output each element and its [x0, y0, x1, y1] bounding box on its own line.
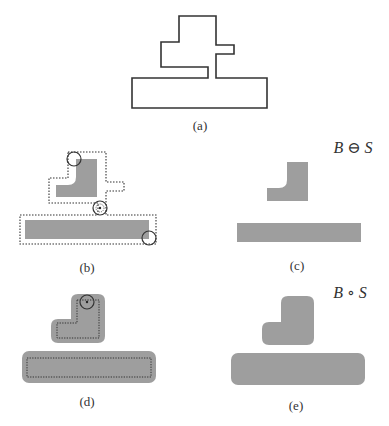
panel-b: (b): [20, 152, 156, 275]
erosion-l-shape: [267, 162, 308, 201]
dilated-bar: [22, 351, 156, 383]
set-b-outline: [132, 16, 267, 108]
origin-dot: [86, 301, 88, 303]
origin-dot: [99, 207, 101, 209]
formula-opening: B ∘ S: [333, 284, 367, 301]
erosion-bar: [237, 223, 361, 242]
opening-l-shape: [262, 296, 314, 345]
morphology-diagram: (a) (b) B ⊖ S (c) (d) B ∘ S (e): [0, 0, 389, 426]
dilated-l-shape: [51, 294, 105, 343]
caption-e: (e): [289, 398, 303, 413]
panel-d: (d): [22, 294, 156, 409]
eroded-bar: [25, 220, 149, 239]
caption-b: (b): [79, 260, 94, 275]
caption-d: (d): [79, 394, 94, 409]
opening-bar: [231, 353, 365, 385]
caption-a: (a): [193, 118, 207, 133]
caption-c: (c): [290, 258, 304, 273]
formula-erosion: B ⊖ S: [333, 139, 372, 156]
panel-a: (a): [132, 16, 267, 133]
panel-e: B ∘ S (e): [231, 284, 367, 413]
panel-c: B ⊖ S (c): [237, 139, 373, 273]
